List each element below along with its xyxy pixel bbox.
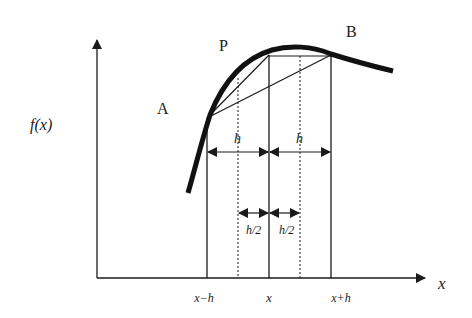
label-half-h-left: h/2 [246, 223, 261, 237]
label-y-axis: f(x) [30, 116, 52, 134]
function-curve [188, 47, 393, 193]
label-point-b: B [346, 23, 357, 40]
label-point-p: P [219, 37, 228, 54]
diagram-canvas: A P B f(x) x h h h/2 h/2 x−h x x+h [0, 0, 472, 318]
label-x-axis: x [437, 274, 446, 293]
tick-x-minus-h: x−h [193, 291, 213, 305]
tick-x: x [265, 290, 272, 305]
tick-x-plus-h: x+h [330, 291, 350, 305]
label-point-a: A [157, 100, 169, 117]
secant-a-to-x [207, 55, 269, 118]
label-h-left: h [234, 131, 241, 146]
label-h-right: h [296, 131, 303, 146]
label-half-h-right: h/2 [279, 223, 294, 237]
